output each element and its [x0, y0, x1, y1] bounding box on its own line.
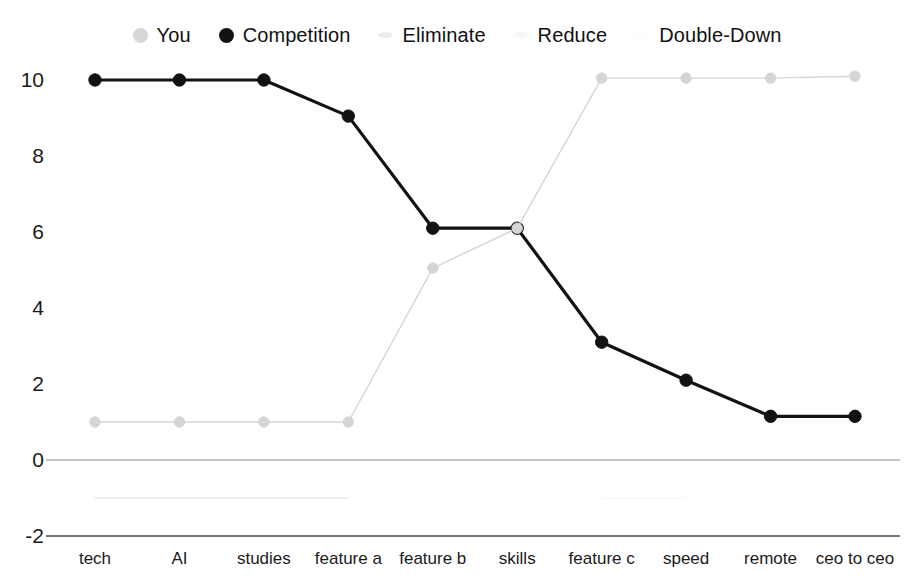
legend-label-eliminate: Eliminate	[402, 25, 485, 45]
strategy-canvas-chart: You Competition Eliminate Reduce Double-…	[0, 0, 914, 586]
series-layer	[89, 71, 861, 498]
data-point-you-studies[interactable]	[259, 417, 269, 427]
legend-marker-double-down-icon	[635, 32, 650, 38]
data-point-you-remote[interactable]	[765, 73, 775, 83]
data-point-competition-studies[interactable]	[258, 74, 270, 86]
y-tick-label-10: 10	[0, 69, 44, 90]
data-point-competition-feature-a[interactable]	[342, 110, 354, 122]
legend-item-double-down[interactable]: Double-Down	[635, 25, 781, 45]
data-point-competition-ceo-to-ceo[interactable]	[849, 410, 861, 422]
y-tick-label-0: 0	[0, 449, 44, 470]
y-tick-label-6: 6	[0, 221, 44, 242]
plot-canvas	[0, 52, 914, 586]
data-point-competition-feature-b[interactable]	[427, 222, 439, 234]
x-tick-label-speed: speed	[663, 550, 709, 568]
y-tick-label-4: 4	[0, 297, 44, 318]
y-tick-label-neg2: -2	[0, 525, 44, 546]
plot-area: 1086420-2 techAIstudiesfeature afeature …	[0, 52, 914, 586]
data-point-you-speed[interactable]	[681, 73, 691, 83]
legend-label-reduce: Reduce	[538, 25, 608, 45]
legend-item-you[interactable]: You	[133, 25, 191, 45]
legend-marker-you-icon	[133, 28, 148, 43]
data-point-competition-AI[interactable]	[173, 74, 185, 86]
y-tick-label-2: 2	[0, 373, 44, 394]
legend-item-competition[interactable]: Competition	[219, 25, 351, 45]
series-line-you	[95, 76, 855, 422]
legend-item-reduce[interactable]: Reduce	[514, 25, 608, 45]
data-point-competition-remote[interactable]	[764, 410, 776, 422]
data-point-you-skills[interactable]	[512, 223, 522, 233]
data-point-competition-speed[interactable]	[680, 374, 692, 386]
data-point-you-feature-c[interactable]	[597, 73, 607, 83]
legend-marker-competition-icon	[219, 28, 234, 43]
data-point-you-tech[interactable]	[90, 417, 100, 427]
x-tick-label-ceo-to-ceo: ceo to ceo	[816, 550, 894, 568]
x-tick-label-feature-b: feature b	[399, 550, 466, 568]
legend-label-you: You	[157, 25, 191, 45]
data-point-you-AI[interactable]	[174, 417, 184, 427]
data-point-you-ceo-to-ceo[interactable]	[850, 71, 860, 81]
chart-legend: You Competition Eliminate Reduce Double-…	[0, 18, 914, 52]
x-tick-label-AI: AI	[171, 550, 187, 568]
legend-marker-reduce-icon	[514, 32, 529, 38]
x-tick-label-studies: studies	[237, 550, 291, 568]
x-tick-label-remote: remote	[744, 550, 797, 568]
legend-item-eliminate[interactable]: Eliminate	[378, 25, 485, 45]
x-tick-label-tech: tech	[79, 550, 111, 568]
y-tick-label-8: 8	[0, 145, 44, 166]
x-tick-label-skills: skills	[499, 550, 536, 568]
data-point-competition-feature-c[interactable]	[596, 336, 608, 348]
x-tick-label-feature-a: feature a	[315, 550, 382, 568]
data-point-you-feature-a[interactable]	[343, 417, 353, 427]
legend-label-competition: Competition	[243, 25, 351, 45]
x-tick-label-feature-c: feature c	[569, 550, 635, 568]
data-point-competition-tech[interactable]	[89, 74, 101, 86]
data-point-you-feature-b[interactable]	[428, 263, 438, 273]
legend-marker-eliminate-icon	[378, 32, 393, 38]
legend-label-double-down: Double-Down	[659, 25, 781, 45]
